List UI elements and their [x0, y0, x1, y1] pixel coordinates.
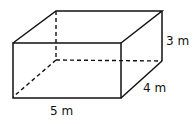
top-face-edges — [13, 11, 162, 43]
hidden-edge-bottom-left-depth — [13, 60, 56, 97]
visible-edges — [13, 11, 162, 98]
hidden-edges — [13, 11, 162, 97]
hidden-edge-back-bottom — [56, 60, 162, 61]
rectangular-prism-diagram: 3 m 4 m 5 m — [0, 0, 194, 124]
length-label: 5 m — [50, 104, 73, 118]
front-face — [13, 43, 121, 98]
width-label: 4 m — [143, 81, 166, 95]
height-label: 3 m — [166, 34, 189, 48]
